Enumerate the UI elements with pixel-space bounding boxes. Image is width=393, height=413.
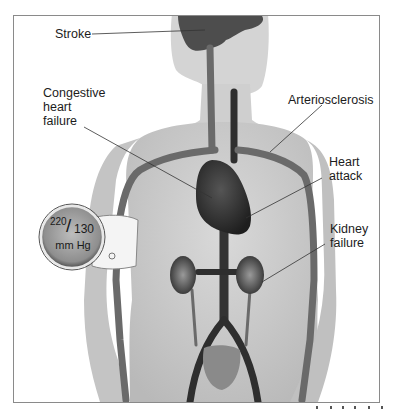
label-heart-attack-line1: Heart <box>329 155 362 169</box>
label-kidney-line2: failure <box>330 236 368 250</box>
gauge-diastolic: 130 <box>74 222 94 236</box>
label-stroke: Stroke <box>55 27 91 41</box>
label-kidney-line1: Kidney <box>330 222 368 236</box>
kidney-right <box>236 256 264 294</box>
anatomy-illustration <box>0 0 393 413</box>
gauge-unit: mm Hg <box>45 239 101 251</box>
label-chf-line3: failure <box>43 114 106 128</box>
label-congestive-heart-failure: Congestive heart failure <box>43 86 106 128</box>
label-chf-line2: heart <box>43 100 106 114</box>
gauge-reading: 220 / 130 mm Hg <box>45 216 101 251</box>
label-heart-attack-line2: attack <box>329 169 362 183</box>
label-heart-attack: Heart attack <box>329 155 362 183</box>
label-chf-line1: Congestive <box>43 86 106 100</box>
gauge-systolic: 220 <box>50 216 67 227</box>
kidney-left <box>170 256 196 294</box>
gauge-slash: / <box>66 215 71 237</box>
cropped-caption <box>280 404 390 412</box>
label-arteriosclerosis: Arteriosclerosis <box>288 93 373 107</box>
label-kidney-failure: Kidney failure <box>330 222 368 250</box>
